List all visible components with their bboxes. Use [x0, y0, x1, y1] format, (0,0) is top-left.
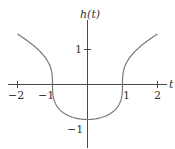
- y-tick-label-neg1: −1: [67, 123, 83, 136]
- x-tick-label-pos1: 1: [123, 89, 130, 102]
- y-tick-label-pos1: 1: [75, 43, 82, 56]
- x-tick-label-neg1: −1: [38, 89, 54, 102]
- x-tick-label-pos2: 2: [154, 89, 161, 102]
- chart-canvas: h(t) t −2 −1 1 2 1 −1: [0, 0, 175, 149]
- h-curve-left: [18, 34, 53, 84]
- x-axis-label: t: [169, 78, 174, 91]
- x-tick-label-neg2: −2: [8, 89, 24, 102]
- y-axis-label: h(t): [80, 8, 100, 21]
- h-curve-right: [123, 34, 158, 84]
